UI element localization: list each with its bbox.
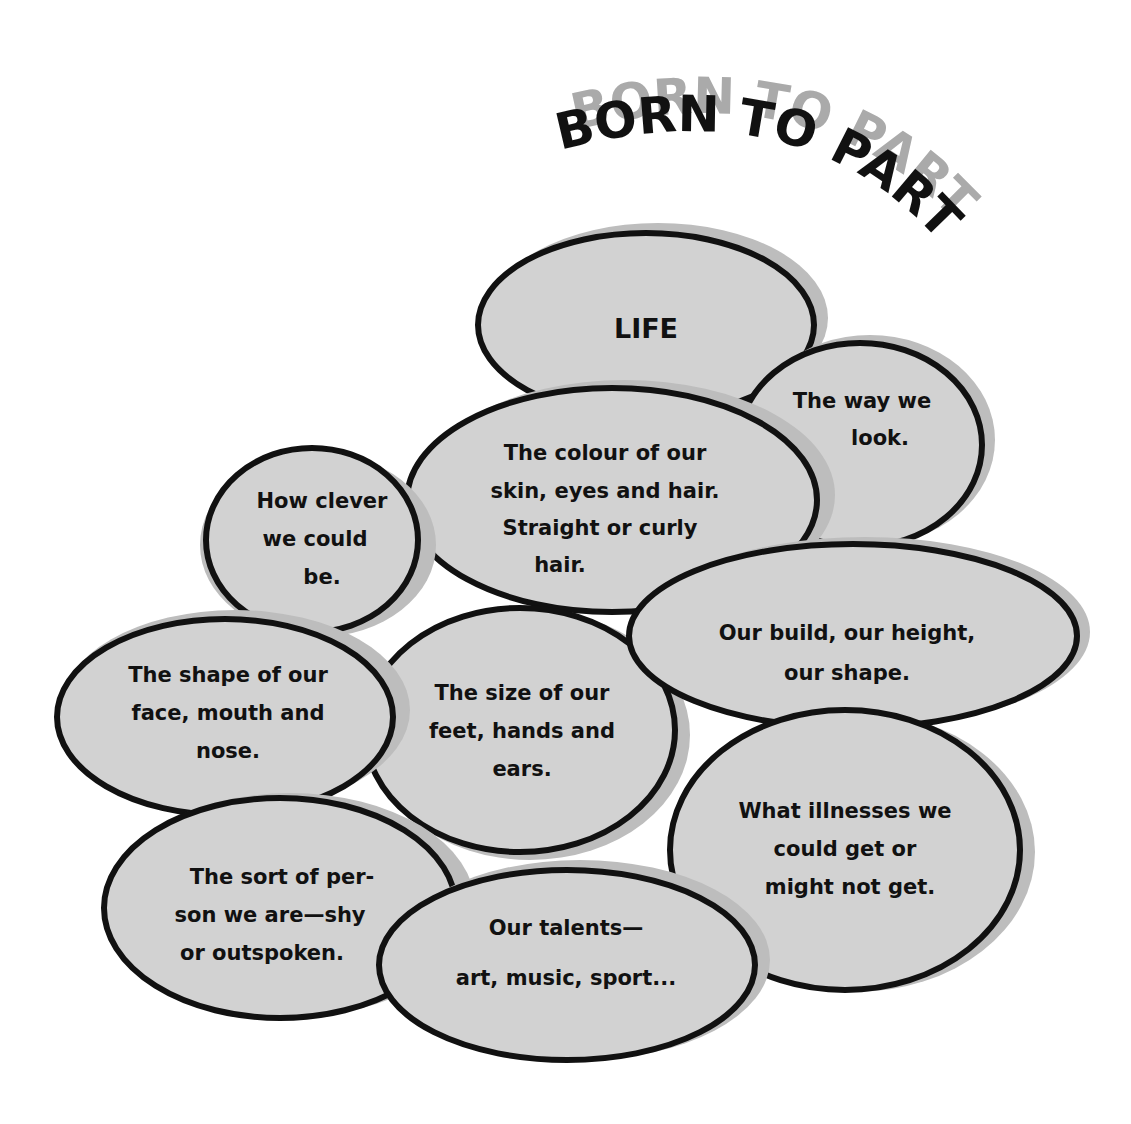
bubble-line: Our build, our height, [719, 621, 976, 645]
bubble-line: or outspoken. [180, 941, 344, 965]
title-main: BORN TO PART [550, 85, 973, 250]
bubble-line: art, music, sport... [456, 966, 676, 990]
bubble-label: LIFE [614, 313, 678, 344]
bubble-line: face, mouth and [132, 701, 325, 725]
title: BORN TO PART BORN TO PART [550, 67, 989, 250]
bubble-line: ears. [492, 757, 551, 781]
bubble-line: look. [851, 426, 909, 450]
bubble-line: nose. [196, 739, 260, 763]
bubble-line: be. [303, 565, 340, 589]
bubble-line: The shape of our [128, 663, 328, 687]
bubble-line: The size of our [435, 681, 611, 705]
bubble-diagram: BORN TO PART BORN TO PART LIFE The way w… [0, 0, 1131, 1124]
bubble-line: The way we [793, 389, 931, 413]
bubble-line: The sort of per- [190, 865, 375, 889]
bubble-line: What illnesses we [738, 799, 951, 823]
bubble-clever: How clever we could be. [200, 448, 436, 637]
bubble-line: skin, eyes and hair. [490, 479, 719, 503]
bubble-line: Our talents— [489, 916, 644, 940]
bubble-line: might not get. [765, 875, 935, 899]
bubble-line: our shape. [784, 661, 910, 685]
bubble-line: How clever [257, 489, 389, 513]
bubble-line: feet, hands and [429, 719, 615, 743]
bubble-line: hair. [534, 553, 586, 577]
bubble-line: son we are—shy [174, 903, 365, 927]
bubble-line: we could [262, 527, 367, 551]
bubble-line: The colour of our [504, 441, 707, 465]
bubble-face-shape: The shape of our face, mouth and nose. [57, 610, 410, 815]
bubble-line: could get or [774, 837, 917, 861]
bubble-line: Straight or curly [503, 516, 698, 540]
